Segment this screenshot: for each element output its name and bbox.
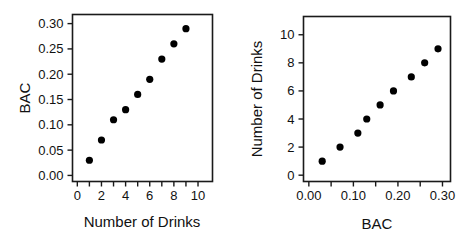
- data-points-left: [86, 25, 190, 164]
- data-point: [421, 59, 428, 66]
- x-tick-label: 0.00: [296, 188, 321, 203]
- x-tick-label: 0.10: [341, 188, 366, 203]
- x-tick-label: 0.20: [385, 188, 410, 203]
- x-tick-label: 2: [98, 188, 105, 203]
- x-tick-label: 6: [146, 188, 153, 203]
- data-point: [390, 87, 397, 94]
- data-point: [98, 136, 105, 143]
- x-axis-ticks-right: 0.000.100.200.30: [296, 182, 455, 203]
- data-point: [354, 129, 361, 136]
- data-point: [319, 158, 326, 165]
- data-point: [363, 115, 370, 122]
- chart-svg-right: 0246810 0.000.100.200.30 Number of Drink…: [236, 0, 473, 243]
- x-tick-label: 10: [191, 188, 205, 203]
- y-tick-label: 0.05: [38, 143, 63, 158]
- y-tick-label: 0.25: [38, 41, 63, 56]
- y-axis-title-left: BAC: [16, 82, 33, 113]
- y-axis-ticks-left: 0.000.050.100.150.200.250.30: [38, 16, 72, 183]
- data-point: [110, 116, 117, 123]
- y-axis-ticks-right: 0246810: [280, 27, 303, 182]
- plot-frame-left: [73, 15, 213, 182]
- data-point: [170, 40, 177, 47]
- data-point: [134, 91, 141, 98]
- y-tick-label: 8: [287, 55, 294, 70]
- y-tick-label: 4: [287, 112, 294, 127]
- y-tick-label: 0.30: [38, 16, 63, 31]
- chart-panel-bac-vs-drinks: 0.000.050.100.150.200.250.30 0246810 BAC…: [0, 0, 236, 243]
- data-point: [336, 143, 343, 150]
- y-tick-label: 10: [280, 27, 294, 42]
- data-point: [182, 25, 189, 32]
- data-points-right: [319, 45, 442, 165]
- y-tick-label: 6: [287, 83, 294, 98]
- plot-frame-right: [304, 17, 451, 182]
- chart-panel-drinks-vs-bac: 0246810 0.000.100.200.30 Number of Drink…: [236, 0, 473, 243]
- chart-svg-left: 0.000.050.100.150.200.250.30 0246810 BAC…: [0, 0, 236, 243]
- data-point: [377, 101, 384, 108]
- y-tick-label: 0.10: [38, 117, 63, 132]
- data-point: [122, 106, 129, 113]
- x-tick-label: 0: [74, 188, 81, 203]
- y-tick-label: 2: [287, 140, 294, 155]
- y-tick-label: 0: [287, 168, 294, 183]
- data-point: [146, 76, 153, 83]
- x-tick-label: 8: [170, 188, 177, 203]
- x-axis-title-left: Number of Drinks: [84, 213, 201, 230]
- scatterplot-figure: 0.000.050.100.150.200.250.30 0246810 BAC…: [0, 0, 473, 243]
- y-axis-title-right: Number of Drinks: [248, 41, 265, 158]
- y-tick-label: 0.15: [38, 92, 63, 107]
- y-tick-label: 0.00: [38, 168, 63, 183]
- data-point: [408, 73, 415, 80]
- x-axis-title-right: BAC: [362, 215, 393, 232]
- data-point: [86, 157, 93, 164]
- data-point: [158, 55, 165, 62]
- data-point: [434, 45, 441, 52]
- x-tick-label: 0.30: [430, 188, 455, 203]
- x-axis-ticks-left: 0246810: [74, 182, 206, 203]
- x-tick-label: 4: [122, 188, 129, 203]
- y-tick-label: 0.20: [38, 67, 63, 82]
